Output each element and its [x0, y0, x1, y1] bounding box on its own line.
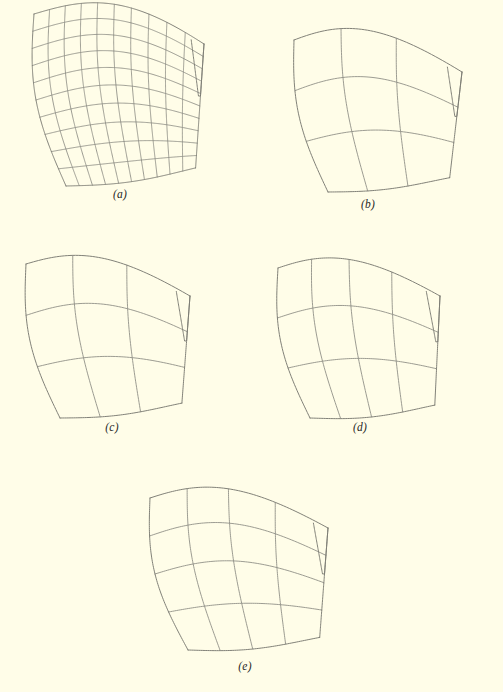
panel-c [16, 258, 231, 426]
patch-boundary [25, 264, 60, 418]
panel-c-caption: (c) [92, 421, 132, 433]
patch-gridline [396, 38, 408, 186]
patch-boundary [176, 291, 190, 341]
panel-d [266, 258, 481, 426]
patch-boundary [26, 255, 190, 296]
figure-page: (a) (b) (c) (d) (e) [0, 0, 503, 692]
patch-gridline [64, 6, 92, 185]
patch-gridline [295, 77, 458, 108]
panel-e-caption: (e) [225, 660, 265, 672]
panel-e [140, 486, 370, 658]
patch-gridline [275, 502, 285, 644]
patch-gridline [80, 3, 105, 184]
patch-boundary [313, 523, 328, 574]
patch-gridline [165, 22, 170, 174]
panel-e-mesh [140, 486, 370, 658]
patch-gridline [155, 561, 324, 583]
patch-gridline [349, 259, 372, 417]
patch-gridline [32, 51, 201, 82]
panel-b-caption: (b) [348, 198, 388, 210]
patch-gridline [131, 8, 145, 179]
patch-boundary [294, 40, 328, 192]
panel-b-mesh [286, 22, 496, 202]
patch-boundary [447, 67, 462, 116]
patch-gridline [228, 489, 252, 649]
patch-gridline [37, 356, 184, 367]
patch-gridline [392, 272, 403, 412]
panel-d-mesh [266, 258, 481, 426]
patch-gridline [277, 305, 438, 332]
patch-boundary [60, 403, 182, 418]
patch-gridline [182, 32, 185, 171]
patch-gridline [288, 358, 436, 368]
patch-gridline [97, 3, 119, 183]
patch-gridline [73, 255, 100, 417]
patch-gridline [48, 10, 79, 186]
patch-boundary [188, 637, 320, 650]
panel-a-mesh [20, 4, 240, 194]
patch-gridline [127, 265, 141, 412]
patch-boundary [149, 498, 188, 650]
patch-boundary [277, 268, 310, 418]
patch-gridline [148, 14, 157, 177]
patch-boundary [191, 40, 204, 96]
panel-c-mesh [16, 258, 231, 426]
patch-boundary [150, 487, 328, 528]
patch-gridline [187, 489, 220, 651]
patch-boundary [294, 28, 462, 72]
patch-gridline [114, 4, 132, 181]
panel-a-caption: (a) [100, 188, 140, 200]
patch-gridline [33, 18, 203, 56]
panel-d-caption: (d) [340, 421, 380, 433]
patch-gridline [33, 67, 200, 93]
patch-gridline [169, 603, 322, 612]
patch-gridline [150, 523, 326, 556]
patch-boundary [426, 291, 440, 341]
panel-b [286, 22, 496, 202]
patch-gridline [306, 130, 454, 142]
patch-boundary [328, 178, 450, 192]
panel-a [20, 4, 240, 194]
patch-boundary [310, 405, 435, 419]
patch-gridline [341, 29, 368, 191]
patch-gridline [311, 259, 340, 418]
patch-boundary [278, 258, 440, 296]
patch-gridline [26, 303, 187, 331]
